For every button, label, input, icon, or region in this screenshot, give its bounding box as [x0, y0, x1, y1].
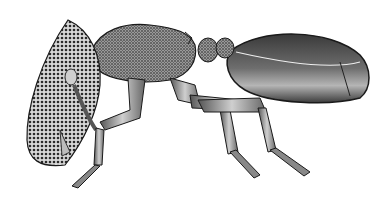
ant-illustration [0, 0, 389, 208]
head [27, 20, 100, 166]
mesosoma [92, 24, 196, 82]
gaster [227, 34, 369, 103]
illustration-canvas [0, 0, 389, 208]
eye [65, 69, 77, 85]
